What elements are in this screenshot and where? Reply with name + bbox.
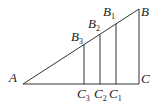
label-C2: C2 [94,86,107,103]
label-B2: B2 [88,16,100,33]
label-B1: B1 [103,4,115,21]
label-B: B [141,4,149,19]
label-A: A [8,70,17,85]
label-C1: C1 [109,86,122,103]
label-C3: C3 [77,86,90,103]
label-C: C [141,71,150,86]
label-B3: B3 [71,29,83,46]
segment-AB [23,9,139,84]
triangle-diagram: A B C B1 B2 B3 C3 C2 C1 [0,0,163,106]
